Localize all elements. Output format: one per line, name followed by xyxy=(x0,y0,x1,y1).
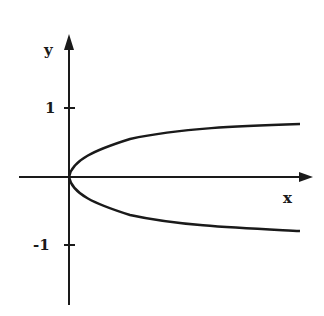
y-tick-label-1: 1 xyxy=(45,99,55,117)
y-axis-label: y xyxy=(43,41,54,59)
x-axis-arrow-icon xyxy=(299,172,313,182)
y-axis-arrow-icon xyxy=(64,34,74,50)
upper-curve xyxy=(69,124,300,177)
plot-area: y x 1 -1 xyxy=(0,0,324,316)
y-tick-label-neg1: -1 xyxy=(33,236,50,254)
lower-curve xyxy=(69,177,300,231)
x-axis-label: x xyxy=(283,189,293,207)
